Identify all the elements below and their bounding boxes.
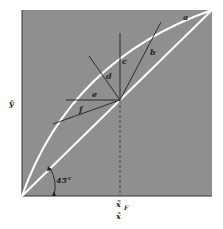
label-e: e — [92, 89, 97, 99]
x-axis-label: x̃ — [115, 211, 121, 221]
feed-subscript: F — [123, 204, 129, 211]
label-d: d — [106, 71, 112, 81]
label-c: c — [122, 56, 127, 66]
curve-label-a: a — [183, 12, 188, 22]
mccabe-thiele-diagram: a b c d e f 45° x̃ F x̃ ỹ — [0, 0, 223, 229]
feed-label: x̃ — [115, 199, 121, 209]
label-b: b — [150, 47, 156, 57]
y-axis-label: ỹ — [8, 98, 15, 108]
angle-label: 45° — [56, 175, 71, 185]
